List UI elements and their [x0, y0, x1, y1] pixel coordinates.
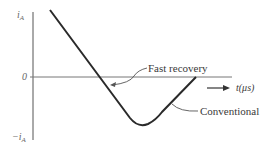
time-arrow-head-icon [223, 85, 230, 91]
conventional-leader [172, 104, 198, 111]
y-axis-top-label: iA [17, 9, 24, 24]
recovery-diagram [0, 0, 272, 148]
conventional-label: Conventional [200, 105, 259, 117]
fast-recovery-arrowhead [110, 82, 116, 87]
y-axis-bottom-label: −iA [12, 131, 26, 146]
y-top-label-sub: A [20, 14, 24, 22]
y-bottom-label-main: −i [12, 131, 22, 142]
fast-recovery-label: Fast recovery [148, 62, 208, 74]
time-axis-label: t(μs) [236, 82, 254, 94]
y-axis-zero-label: 0 [22, 71, 27, 83]
y-bottom-label-sub: A [22, 136, 26, 144]
